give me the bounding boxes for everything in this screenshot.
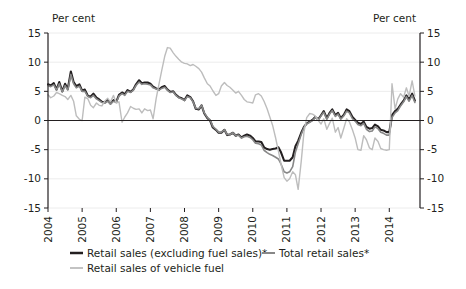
ytick-label-right-0: 0 (427, 114, 434, 126)
ytick-label-right--5: -5 (427, 143, 437, 155)
xtick-label-2006: 2006 (110, 216, 122, 243)
ytick-label-left-0: 0 (34, 114, 41, 126)
xtick-label-2012: 2012 (315, 216, 327, 243)
y-axis-unit-label-right: Per cent (373, 12, 416, 24)
xtick-label-2008: 2008 (178, 216, 190, 243)
ytick-label-left--5: -5 (31, 143, 41, 155)
y-axis-unit-label-left: Per cent (52, 12, 95, 24)
legend-label-0: Retail sales (excluding fuel sales)* (87, 247, 267, 259)
ytick-label-right-5: 5 (427, 85, 434, 97)
legend-label-2: Retail sales of vehicle fuel (87, 262, 224, 274)
series-line-2 (48, 48, 415, 190)
xtick-label-2007: 2007 (144, 216, 156, 243)
retail-sales-chart: 151510105500-5-5-10-10-15-15200420052006… (0, 0, 466, 289)
ytick-label-right--15: -15 (427, 202, 444, 214)
xtick-label-2010: 2010 (246, 216, 258, 243)
ytick-label-left--15: -15 (24, 202, 41, 214)
legend-label-1: Total retail sales* (278, 247, 369, 259)
xtick-label-2004: 2004 (42, 216, 54, 243)
ytick-label-left--10: -10 (24, 172, 41, 184)
xtick-label-2011: 2011 (281, 216, 293, 243)
xtick-label-2013: 2013 (349, 216, 361, 243)
ytick-label-right--10: -10 (427, 172, 444, 184)
xtick-label-2005: 2005 (76, 216, 88, 243)
chart-canvas: 151510105500-5-5-10-10-15-15200420052006… (0, 0, 466, 289)
ytick-label-left-10: 10 (28, 56, 41, 68)
ytick-label-left-15: 15 (28, 27, 41, 39)
ytick-label-left-5: 5 (34, 85, 41, 97)
xtick-label-2014: 2014 (383, 216, 395, 243)
xtick-label-2009: 2009 (212, 216, 224, 243)
ytick-label-right-15: 15 (427, 27, 440, 39)
series-line-0 (48, 72, 415, 161)
ytick-label-right-10: 10 (427, 56, 440, 68)
